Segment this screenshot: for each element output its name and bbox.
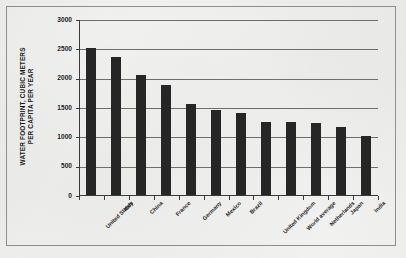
gridline [79, 167, 378, 168]
gridline [79, 20, 378, 21]
bar [161, 85, 171, 195]
bar [361, 136, 371, 195]
x-tick-label: India [372, 200, 385, 213]
bar [211, 110, 221, 195]
y-axis-title: WATER FOOTPRINT, CUBIC METERS PER CAPITA… [19, 16, 36, 196]
y-tick-mark [76, 49, 80, 50]
x-tick-label: China [149, 200, 164, 215]
x-tick-mark [353, 196, 354, 200]
chart-screenshot: WATER FOOTPRINT, CUBIC METERS PER CAPITA… [0, 0, 406, 258]
bar [236, 113, 246, 195]
y-tick-label: 2500 [46, 46, 72, 53]
gridline [79, 137, 378, 138]
bar [261, 122, 271, 195]
x-tick-label: Brazil [248, 200, 263, 215]
x-tick-label: Mexico [225, 200, 243, 218]
bar [136, 75, 146, 195]
gridline [79, 108, 378, 109]
plot-area: 050010001500200025003000 [79, 20, 378, 196]
y-tick-label: 1500 [46, 105, 72, 112]
x-tick-mark [328, 196, 329, 200]
bar [286, 122, 296, 195]
y-tick-label: 500 [46, 163, 72, 170]
x-tick-label: France [175, 200, 192, 217]
y-tick-label: 0 [46, 193, 72, 200]
gridline [79, 49, 378, 50]
x-tick-mark [303, 196, 304, 200]
x-tick-mark [204, 196, 205, 200]
bar [86, 48, 96, 195]
y-tick-mark [76, 137, 80, 138]
x-tick-mark [378, 196, 379, 200]
x-tick-mark [278, 196, 279, 200]
y-tick-mark [76, 20, 80, 21]
x-tick-mark [154, 196, 155, 200]
bar [311, 123, 321, 195]
x-tick-mark [229, 196, 230, 200]
x-tick-mark [253, 196, 254, 200]
bar [336, 127, 346, 195]
x-tick-mark [179, 196, 180, 200]
y-tick-label: 2000 [46, 75, 72, 82]
x-tick-label: Germany [201, 200, 222, 221]
x-tick-mark [104, 196, 105, 200]
bar [111, 57, 121, 195]
y-tick-mark [76, 108, 80, 109]
y-tick-mark [76, 167, 80, 168]
y-tick-label: 1000 [46, 134, 72, 141]
x-tick-mark [79, 196, 80, 200]
x-tick-label: Italy [123, 200, 135, 212]
y-tick-mark [76, 79, 80, 80]
y-tick-label: 3000 [46, 17, 72, 24]
gridline [79, 79, 378, 80]
bar [186, 104, 196, 195]
bar-chart: WATER FOOTPRINT, CUBIC METERS PER CAPITA… [0, 0, 406, 258]
